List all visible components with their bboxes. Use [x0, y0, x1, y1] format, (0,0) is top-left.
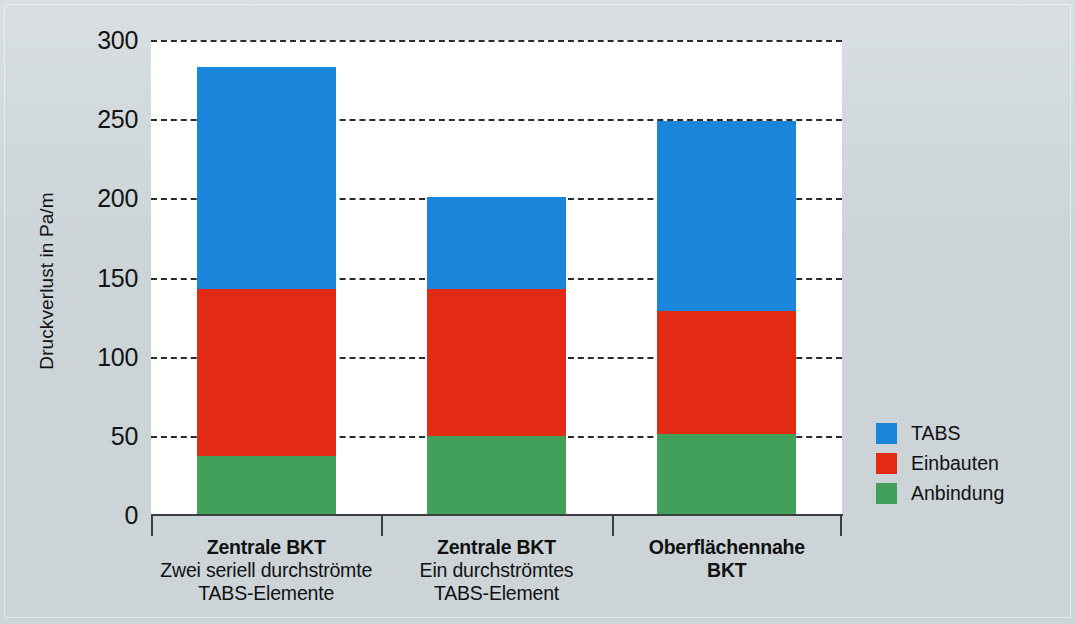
x-category-label: Zentrale BKTZwei seriell durchströmteTAB…: [151, 536, 381, 605]
legend-swatch-icon: [876, 483, 897, 504]
x-axis-tick: [381, 515, 383, 536]
x-category-label-line: TABS-Element: [381, 582, 611, 605]
y-tick-label: 250: [97, 105, 138, 134]
y-tick-label: 50: [111, 421, 138, 450]
x-category-label-line: Oberflächennahe: [612, 536, 842, 559]
x-axis-tick: [840, 515, 842, 536]
bar-segment-einbauten: [657, 311, 796, 435]
legend-label: Einbauten: [911, 452, 999, 475]
x-category-label-line: BKT: [612, 559, 842, 582]
bar-segment-tabs: [657, 121, 796, 311]
bar-segment-einbauten: [197, 289, 336, 457]
x-category-label-line: Zwei seriell durchströmte: [151, 559, 381, 582]
y-tick-label: 200: [97, 184, 138, 213]
x-category-label-line: Zentrale BKT: [381, 536, 611, 559]
y-tick-label: 150: [97, 263, 138, 292]
bar-segment-anbindung: [197, 456, 336, 515]
x-category-label-line: Zentrale BKT: [151, 536, 381, 559]
y-tick-label: 100: [97, 342, 138, 371]
bar-segment-anbindung: [657, 434, 796, 515]
bar-segment-einbauten: [427, 289, 566, 436]
x-category-label-line: TABS-Elemente: [151, 582, 381, 605]
y-axis-tick-labels: 300250200150100500: [0, 0, 151, 624]
x-category-label: OberflächennaheBKT: [612, 536, 842, 582]
legend-swatch-icon: [876, 423, 897, 444]
legend-swatch-icon: [876, 453, 897, 474]
y-tick-label: 300: [97, 26, 138, 55]
x-category-label: Zentrale BKTEin durchströmtesTABS-Elemen…: [381, 536, 611, 605]
legend-item[interactable]: Anbindung: [876, 478, 1004, 508]
bar-segment-anbindung: [427, 436, 566, 515]
bar-segment-tabs: [427, 197, 566, 289]
y-tick-label: 0: [124, 501, 138, 530]
chart-legend: TABSEinbautenAnbindung: [876, 418, 1004, 508]
legend-item[interactable]: Einbauten: [876, 448, 1004, 478]
legend-label: TABS: [911, 422, 960, 445]
x-axis-tick: [612, 515, 614, 536]
x-axis-tick: [151, 515, 153, 536]
x-axis-line: [151, 514, 843, 516]
bar-stack: [657, 40, 796, 515]
legend-item[interactable]: TABS: [876, 418, 1004, 448]
bar-stack: [427, 40, 566, 515]
legend-label: Anbindung: [911, 482, 1004, 505]
plot-area: [151, 40, 842, 515]
bar-stack: [197, 40, 336, 515]
chart-figure: Druckverlust in Pa/m 300250200150100500 …: [0, 0, 1075, 624]
bar-segment-tabs: [197, 67, 336, 289]
x-category-label-line: Ein durchströmtes: [381, 559, 611, 582]
